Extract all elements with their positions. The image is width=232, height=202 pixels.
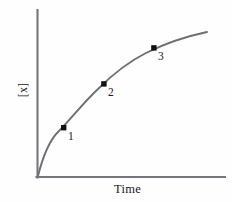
x-axis-label: Time [114, 183, 141, 196]
plot-area [0, 0, 232, 202]
data-point-marker-1 [61, 125, 66, 130]
data-point-marker-3 [151, 45, 156, 50]
data-point-marker-2 [101, 81, 106, 86]
data-point-label-2: 2 [108, 87, 114, 99]
data-point-label-3: 3 [158, 51, 164, 63]
y-axis-label: [x] [17, 83, 29, 98]
concentration-curve [38, 32, 207, 176]
chart-figure: 1 2 3 Time [x] [0, 0, 232, 202]
data-point-label-1: 1 [68, 131, 74, 143]
